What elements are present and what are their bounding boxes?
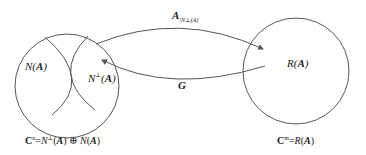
domain-circle: [15, 34, 119, 138]
restricted-map-arrow: [96, 28, 263, 49]
range-caption: Cm=R(A): [277, 136, 314, 146]
range-label: R(A): [287, 58, 308, 69]
generalized-inverse-arrow: [102, 60, 265, 79]
domain-caption: Cn=N⊥(A) ⊕ N(A): [25, 136, 100, 146]
diagram-canvas: [0, 0, 366, 155]
restricted-map-label: A|N⊥(A): [172, 10, 198, 21]
null-space-complement-label: N⊥(A): [88, 73, 116, 84]
partition-arc-left: [45, 37, 72, 115]
range-circle: [243, 18, 349, 124]
null-space-label: N(A): [25, 61, 47, 72]
generalized-inverse-label: G: [178, 80, 186, 91]
